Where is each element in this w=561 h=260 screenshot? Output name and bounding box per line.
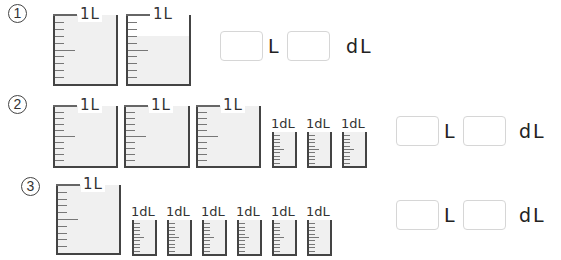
container-label: 1dL — [271, 205, 295, 218]
deciliters-answer-box[interactable] — [287, 31, 330, 61]
scale-tick — [55, 154, 64, 155]
scale-tick — [274, 149, 284, 150]
scale-tick — [204, 240, 210, 241]
scale-tick — [204, 251, 210, 252]
scale-tick — [58, 233, 67, 234]
scale-top-mark — [196, 105, 220, 107]
container-label: 1L — [149, 98, 173, 113]
scale-tick — [55, 70, 64, 71]
scale-tick — [274, 237, 284, 238]
deciliter-measure-icon — [167, 220, 192, 256]
liters-answer-box[interactable] — [396, 116, 439, 146]
liters-unit-label: L — [268, 37, 279, 56]
scale-tick — [309, 244, 315, 245]
scale-tick — [55, 148, 64, 149]
liter-measure-icon — [126, 15, 191, 86]
scale-tick — [169, 223, 175, 224]
container-label: 1dL — [271, 117, 295, 130]
scale-tick — [55, 124, 64, 125]
scale-tick — [274, 152, 280, 153]
scale-tick — [274, 159, 280, 160]
scale-tick — [309, 149, 319, 150]
scale-tick — [204, 247, 210, 248]
scale-tick — [198, 118, 207, 119]
deciliter-measure-icon — [202, 220, 227, 256]
scale-tick — [309, 230, 315, 231]
scale-tick — [204, 234, 210, 235]
scale-tick — [134, 227, 140, 228]
liter-measure-icon — [124, 106, 190, 168]
liters-unit-label: L — [444, 122, 455, 141]
container-label: 1dL — [306, 117, 330, 130]
scale-tick — [204, 230, 210, 231]
deciliters-answer-box[interactable] — [463, 200, 506, 230]
scale-tick — [198, 124, 207, 125]
scale-tick — [309, 163, 315, 164]
scale-tick — [128, 77, 137, 78]
liters-answer-box[interactable] — [396, 200, 439, 230]
deciliter-measure-icon — [307, 132, 332, 168]
scale-tick — [169, 240, 175, 241]
container-label: 1L — [151, 7, 175, 22]
deciliter-measure-icon — [307, 220, 332, 256]
scale-tick — [169, 234, 175, 235]
scale-tick — [309, 247, 315, 248]
deciliters-unit-label: dL — [519, 206, 546, 225]
scale-tick — [126, 124, 135, 125]
scale-tick — [134, 223, 140, 224]
scale-tick — [58, 226, 67, 227]
scale-tick — [198, 112, 207, 113]
scale-tick — [274, 156, 280, 157]
container-label: 1dL — [306, 205, 330, 218]
scale-top-mark — [56, 184, 80, 186]
scale-tick — [128, 36, 137, 37]
scale-tick — [55, 22, 64, 23]
scale-tick — [344, 135, 350, 136]
problem-number: 3 — [21, 177, 40, 196]
scale-tick — [128, 22, 137, 23]
scale-tick — [128, 50, 148, 51]
scale-tick — [274, 146, 280, 147]
scale-tick — [58, 246, 67, 247]
scale-tick — [274, 139, 280, 140]
scale-tick — [55, 136, 75, 137]
scale-tick — [274, 240, 280, 241]
scale-tick — [198, 130, 207, 131]
scale-tick — [198, 136, 218, 137]
scale-tick — [55, 50, 75, 51]
scale-tick — [344, 139, 350, 140]
scale-tick — [344, 152, 350, 153]
scale-top-mark — [53, 105, 77, 107]
scale-tick — [55, 36, 64, 37]
liters-answer-box[interactable] — [220, 31, 263, 61]
scale-tick — [128, 70, 137, 71]
deciliter-measure-icon — [342, 132, 367, 168]
scale-tick — [239, 240, 245, 241]
scale-tick — [239, 237, 249, 238]
scale-tick — [55, 142, 64, 143]
scale-tick — [126, 136, 146, 137]
scale-tick — [309, 146, 315, 147]
scale-tick — [239, 247, 245, 248]
scale-tick — [58, 205, 67, 206]
scale-tick — [239, 227, 245, 228]
scale-tick — [58, 212, 67, 213]
deciliters-answer-box[interactable] — [463, 116, 506, 146]
scale-tick — [55, 77, 64, 78]
container-label: 1dL — [166, 205, 190, 218]
scale-tick — [274, 234, 280, 235]
scale-tick — [169, 244, 175, 245]
scale-tick — [58, 199, 67, 200]
scale-tick — [239, 251, 245, 252]
scale-tick — [344, 156, 350, 157]
scale-tick — [274, 230, 280, 231]
scale-tick — [204, 237, 214, 238]
deciliters-unit-label: dL — [519, 122, 546, 141]
scale-tick — [198, 142, 207, 143]
scale-tick — [344, 146, 350, 147]
scale-tick — [134, 247, 140, 248]
scale-tick — [204, 227, 210, 228]
deciliter-measure-icon — [272, 132, 297, 168]
scale-tick — [309, 159, 315, 160]
scale-tick — [55, 118, 64, 119]
